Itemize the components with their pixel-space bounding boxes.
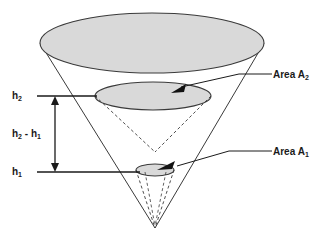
label-area1-sub: 1 bbox=[305, 151, 309, 158]
area-a1-leader bbox=[157, 151, 272, 170]
label-hdiff-sub1: 2 bbox=[18, 133, 22, 140]
label-h1: h1 bbox=[12, 167, 22, 177]
label-hdiff-mid: - h bbox=[22, 128, 37, 139]
label-area1-base: Area A bbox=[273, 146, 305, 157]
label-area-a1: Area A1 bbox=[273, 147, 309, 157]
label-area2-sub: 2 bbox=[305, 74, 309, 81]
label-h2: h2 bbox=[12, 91, 22, 101]
label-h2-sub: 2 bbox=[18, 95, 22, 102]
height-difference-arrow bbox=[51, 96, 59, 172]
label-area2-base: Area A bbox=[273, 69, 305, 80]
cone-diagram-graphic bbox=[0, 0, 317, 233]
cone-diagram: h2 h2 - h1 h1 Area A2 Area A1 bbox=[0, 0, 317, 233]
label-h1-sub: 1 bbox=[18, 171, 22, 178]
label-hdiff-sub2: 1 bbox=[37, 133, 41, 140]
label-height-difference: h2 - h1 bbox=[12, 129, 41, 139]
top-ellipse-area bbox=[40, 13, 264, 73]
label-area-a2: Area A2 bbox=[273, 70, 309, 80]
small-dashed-cone bbox=[136, 170, 174, 228]
mid-ellipse-area-a2 bbox=[95, 82, 211, 110]
